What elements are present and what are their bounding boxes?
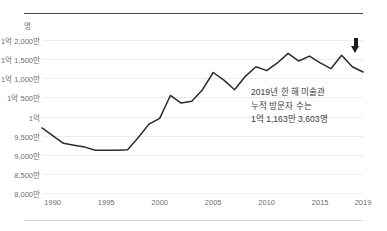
x-axis-tick-label: 1990 bbox=[44, 198, 61, 207]
x-axis-tick-label: 2000 bbox=[151, 198, 168, 207]
y-axis-tick-label: 1억 bbox=[29, 111, 40, 122]
annotation-line-1: 2019년 한 해 미술관 bbox=[251, 86, 387, 100]
annotation-line-2: 누적 방문자 수는 bbox=[251, 100, 387, 114]
y-axis-tick-labels: 8,000만8,500만9,000만9,500만1억1억 500만1억 1,00… bbox=[0, 40, 40, 193]
gridline bbox=[42, 193, 363, 194]
x-axis-tick-label: 2015 bbox=[312, 198, 329, 207]
arrow-head bbox=[351, 46, 359, 53]
y-axis-tick-label: 9,500만 bbox=[14, 130, 40, 141]
top-divider bbox=[24, 13, 363, 14]
y-axis-tick-label: 1억 500만 bbox=[7, 92, 40, 103]
annotation-line-3: 1억 1,163만 3,603명 bbox=[251, 113, 387, 127]
y-axis-tick-label: 9,000만 bbox=[14, 149, 40, 160]
x-axis-tick-label: 2010 bbox=[258, 198, 275, 207]
x-axis-tick-label: 2005 bbox=[205, 198, 222, 207]
y-axis-tick-label: 1억 1,000만 bbox=[1, 73, 40, 84]
x-axis-tick-label: 1995 bbox=[98, 198, 115, 207]
x-axis-tick-labels: 1990199520002005201020152019 bbox=[42, 198, 363, 212]
x-axis-tick-label: 2019 bbox=[355, 198, 372, 207]
y-axis-tick-label: 8,500만 bbox=[14, 168, 40, 179]
y-axis-tick-label: 1억 2,000만 bbox=[1, 35, 40, 46]
bottom-divider bbox=[24, 220, 363, 221]
chart-figure: 명 8,000만8,500만9,000만9,500만1억1억 500만1억 1,… bbox=[0, 0, 387, 231]
y-axis-tick-label: 8,000만 bbox=[14, 188, 40, 199]
y-axis-unit-label: 명 bbox=[24, 20, 31, 31]
annotation-callout: 2019년 한 해 미술관 누적 방문자 수는 1억 1,163만 3,603명 bbox=[251, 86, 387, 127]
y-axis-tick-label: 1억 1,500만 bbox=[1, 54, 40, 65]
